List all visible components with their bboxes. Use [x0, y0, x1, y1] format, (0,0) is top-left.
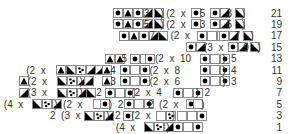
empty-stitch-cell	[115, 88, 125, 98]
repeat-instruction-text: ) 4	[222, 65, 236, 76]
row-number: 5	[266, 99, 282, 110]
triangle-stitch-icon	[56, 65, 66, 75]
repeat-instruction-text: ) 2	[106, 110, 120, 121]
repeat-instruction-text: 2 (2 x	[148, 99, 179, 110]
triangle-stitch-icon	[123, 19, 133, 29]
triangle-stitch-icon	[105, 54, 115, 64]
repeat-instruction-text: (2 x	[26, 65, 45, 76]
repeat-instruction-text: 2 (3 x	[50, 110, 81, 121]
row-number: 15	[266, 42, 282, 53]
repeat-instruction-text: )	[166, 122, 169, 133]
cluster-stitch-icon	[76, 65, 86, 75]
row-number: 13	[266, 53, 282, 64]
empty-stitch-cell	[156, 111, 166, 121]
triangle-stitch-icon	[129, 31, 139, 41]
row-number: 1	[266, 122, 282, 133]
row-number: 17	[266, 30, 282, 41]
repeat-instruction-text: 5	[200, 8, 206, 19]
repeat-instruction-text: )	[257, 42, 260, 53]
repeat-instruction-text: 3	[144, 8, 150, 19]
row-number: 7	[266, 87, 282, 98]
repeat-instruction-text: ) 2	[196, 87, 210, 98]
cluster-stitch-icon	[154, 122, 164, 132]
empty-stitch-cell	[183, 88, 193, 98]
repeat-instruction-text: (2 x 4	[131, 87, 162, 98]
stitch-chart: 3)(2 x53)5)(2 x35)7(2 x7)(3 x9)5(2 x 10)…	[0, 0, 294, 134]
empty-stitch-cell	[210, 76, 220, 86]
dot-stitch-icon	[186, 42, 196, 52]
repeat-instruction-text: 2	[96, 87, 102, 98]
repeat-instruction-text: )	[79, 76, 82, 87]
dot-stitch-icon	[219, 31, 229, 41]
repeat-instruction-text: 3	[200, 19, 206, 30]
dot-stitch-icon	[193, 122, 203, 132]
dot-stitch-icon	[173, 122, 183, 132]
repeat-instruction-text: )	[242, 19, 245, 30]
left-triangle-stitch-icon	[32, 99, 42, 109]
repeat-instruction-text: (2 x 6	[149, 76, 180, 87]
repeat-instruction-text: 4	[110, 65, 116, 76]
dot-stitch-icon	[120, 76, 130, 86]
left-triangle-stitch-icon	[158, 31, 168, 41]
empty-stitch-cell	[187, 111, 197, 121]
repeat-instruction-text: 7	[235, 30, 241, 41]
left-triangle-stitch-icon	[57, 76, 67, 86]
row-number: 19	[266, 19, 282, 30]
cluster-stitch-icon	[67, 88, 77, 98]
dot-stitch-icon	[210, 8, 220, 18]
repeat-instruction-text: (2 x	[166, 8, 185, 19]
repeat-instruction-text: )	[242, 8, 245, 19]
repeat-instruction-text: )	[161, 19, 164, 30]
repeat-instruction-text: 5	[226, 19, 232, 30]
empty-stitch-cell	[210, 54, 220, 64]
repeat-instruction-text: (3 x	[28, 87, 47, 98]
repeat-instruction-text: 9	[243, 42, 249, 53]
repeat-instruction-text: (2 x	[166, 19, 185, 30]
right-triangle-stitch-icon	[84, 76, 94, 86]
repeat-instruction-text: (2 x	[170, 30, 189, 41]
row-number: 11	[266, 65, 282, 76]
left-triangle-stitch-icon	[57, 88, 67, 98]
dot-stitch-icon	[228, 42, 238, 52]
dot-stitch-icon	[113, 19, 123, 29]
dot-stitch-icon	[200, 54, 210, 64]
row-number: 3	[266, 110, 282, 121]
repeat-instruction-text: ) 3	[222, 76, 236, 87]
dot-stitch-icon	[124, 99, 134, 109]
dot-stitch-icon	[130, 54, 140, 64]
dot-stitch-icon	[119, 31, 129, 41]
repeat-instruction-text: (3 x	[204, 42, 223, 53]
dot-stitch-icon	[133, 8, 143, 18]
repeat-instruction-text: 5	[144, 19, 150, 30]
row-number: 21	[266, 8, 282, 19]
repeat-instruction-text: ) 2	[109, 99, 123, 110]
left-triangle-stitch-icon	[84, 111, 94, 121]
dot-stitch-icon	[139, 31, 149, 41]
empty-stitch-cell	[183, 122, 193, 132]
repeat-instruction-text: )	[79, 87, 82, 98]
repeat-instruction-text: ) 5	[222, 53, 236, 64]
dot-stitch-icon	[200, 65, 210, 75]
repeat-instruction-text: (4 x	[116, 122, 135, 133]
cluster-stitch-icon	[42, 99, 52, 109]
repeat-instruction-text: (2 x	[131, 110, 150, 121]
dot-stitch-icon	[197, 111, 207, 121]
left-triangle-stitch-icon	[66, 65, 76, 75]
empty-stitch-cell	[130, 65, 140, 75]
repeat-instruction-text: (2 x 10	[155, 53, 191, 64]
cluster-stitch-icon	[67, 76, 77, 86]
dot-stitch-icon	[133, 19, 143, 29]
repeat-instruction-text: (2 x 8	[149, 65, 180, 76]
repeat-instruction-text: 5	[121, 53, 127, 64]
empty-stitch-cell	[210, 65, 220, 75]
repeat-instruction-text: )	[172, 110, 175, 121]
dot-stitch-icon	[197, 31, 207, 41]
left-triangle-stitch-icon	[144, 122, 154, 132]
repeat-instruction-text: )	[250, 30, 253, 41]
repeat-instruction-text: )	[201, 99, 204, 110]
dot-stitch-icon	[105, 88, 115, 98]
dot-stitch-icon	[173, 88, 183, 98]
dot-stitch-icon	[145, 54, 155, 64]
empty-stitch-cell	[134, 99, 144, 109]
dot-stitch-icon	[200, 76, 210, 86]
